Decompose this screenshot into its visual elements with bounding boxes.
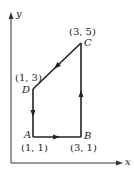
arrow-right-icon — [53, 135, 60, 140]
point-b-label: B — [84, 131, 91, 141]
x-axis-arrow-icon — [116, 161, 123, 166]
arrow-down-icon — [31, 110, 36, 117]
point-b-coord: (3, 1) — [70, 143, 97, 153]
x-axis-label: x — [125, 157, 131, 167]
point-a-label: A — [24, 130, 31, 140]
point-d-label: D — [22, 85, 30, 95]
y-axis-label: y — [16, 9, 22, 19]
point-c-label: C — [84, 38, 92, 48]
arrow-up-icon — [79, 90, 84, 97]
y-axis-arrow-icon — [9, 12, 14, 19]
point-d-coord: (1, 3) — [15, 73, 42, 83]
point-c-coord: (3, 5) — [69, 27, 96, 37]
point-a-coord: (1, 1) — [21, 143, 48, 153]
closed-path — [33, 43, 81, 137]
